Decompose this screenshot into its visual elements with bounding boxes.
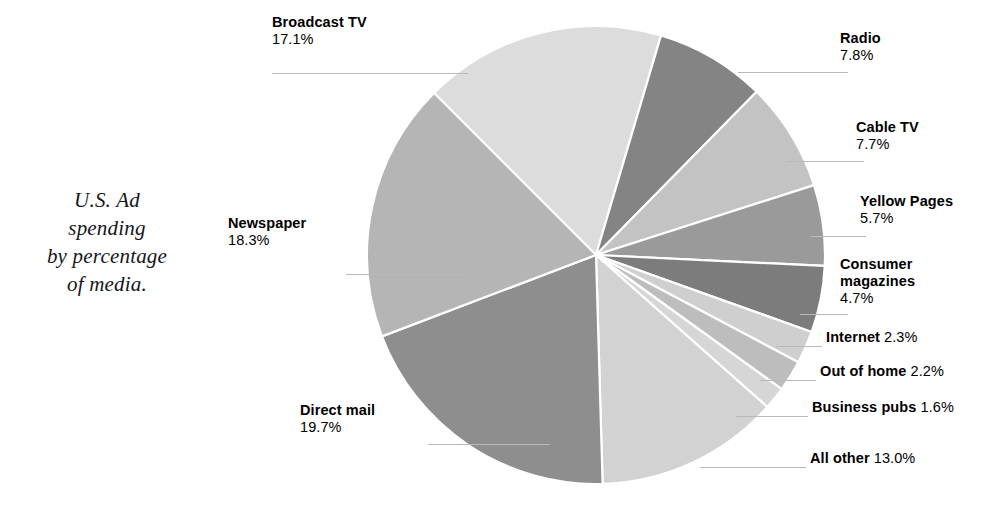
label-direct-mail: Direct mail 19.7% xyxy=(300,402,375,436)
leader-line-all-other xyxy=(700,467,806,468)
label-consumer-magazines-name-line2: magazines xyxy=(840,273,915,290)
label-all-other-value: 13.0% xyxy=(874,450,916,466)
label-newspaper-value: 18.3% xyxy=(228,232,306,249)
label-business-pubs: Business pubs 1.6% xyxy=(812,399,954,416)
label-broadcast-tv-name: Broadcast TV xyxy=(272,14,367,31)
leader-line-direct-mail xyxy=(428,444,550,445)
leader-line-business-pubs xyxy=(736,416,808,417)
leader-line-newspaper xyxy=(346,274,464,275)
label-newspaper: Newspaper 18.3% xyxy=(228,215,306,249)
label-radio: Radio 7.8% xyxy=(840,30,881,64)
leader-line-out-of-home xyxy=(760,380,816,381)
label-out-of-home-value: 2.2% xyxy=(911,363,944,379)
label-all-other: All other 13.0% xyxy=(810,450,915,467)
label-direct-mail-name: Direct mail xyxy=(300,402,375,419)
label-consumer-magazines: Consumer magazines 4.7% xyxy=(840,256,915,307)
label-radio-value: 7.8% xyxy=(840,47,881,64)
label-yellow-pages-value: 5.7% xyxy=(860,210,953,227)
leader-line-internet xyxy=(776,346,822,347)
label-internet: Internet 2.3% xyxy=(826,329,917,346)
label-internet-name: Internet xyxy=(826,329,880,345)
leader-line-radio xyxy=(738,72,848,73)
label-cable-tv-value: 7.7% xyxy=(856,136,919,153)
label-broadcast-tv: Broadcast TV 17.1% xyxy=(272,14,367,48)
label-radio-name: Radio xyxy=(840,30,881,47)
label-direct-mail-value: 19.7% xyxy=(300,419,375,436)
leader-line-yellow-pages xyxy=(810,236,866,237)
label-out-of-home: Out of home 2.2% xyxy=(820,363,944,380)
label-consumer-magazines-name-line1: Consumer xyxy=(840,256,915,273)
leader-line-cable-tv xyxy=(786,161,864,162)
label-business-pubs-name: Business pubs xyxy=(812,399,916,415)
label-cable-tv: Cable TV 7.7% xyxy=(856,119,919,153)
pie-chart-figure: U.S. Ad spending by percentage of media.… xyxy=(0,0,992,515)
label-cable-tv-name: Cable TV xyxy=(856,119,919,136)
label-yellow-pages-name: Yellow Pages xyxy=(860,193,953,210)
label-consumer-magazines-value: 4.7% xyxy=(840,290,915,307)
label-all-other-name: All other xyxy=(810,450,870,466)
leader-line-consumer-magazines xyxy=(800,314,848,315)
label-yellow-pages: Yellow Pages 5.7% xyxy=(860,193,953,227)
label-out-of-home-name: Out of home xyxy=(820,363,906,379)
leader-line-broadcast-tv xyxy=(272,73,468,74)
label-newspaper-name: Newspaper xyxy=(228,215,306,232)
label-business-pubs-value: 1.6% xyxy=(920,399,953,415)
label-internet-value: 2.3% xyxy=(884,329,917,345)
label-broadcast-tv-value: 17.1% xyxy=(272,31,367,48)
